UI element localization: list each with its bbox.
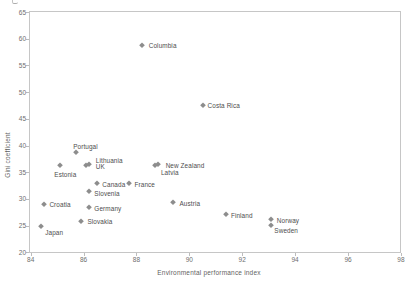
data-point-label: Columbia — [149, 42, 177, 49]
plot-area — [29, 11, 402, 253]
data-point-label: France — [135, 181, 156, 188]
x-tick-label: 84 — [27, 256, 34, 263]
y-tick-label: 40 — [10, 142, 26, 149]
data-point-label: Canada — [102, 181, 125, 188]
data-point-label: Japan — [45, 229, 63, 236]
data-point-label: Finland — [231, 212, 253, 219]
y-tick-label: 25 — [10, 222, 26, 229]
data-point-label: Costa Rica — [208, 102, 240, 109]
x-tick-label: 88 — [133, 256, 140, 263]
data-point-label: Sweden — [274, 227, 298, 234]
data-point-label: Germany — [94, 205, 121, 212]
x-tick-label: 94 — [292, 256, 299, 263]
y-tick-label: 60 — [10, 35, 26, 42]
x-tick-label: 92 — [239, 256, 246, 263]
y-tick-label: 50 — [10, 89, 26, 96]
x-tick-label: 86 — [80, 256, 87, 263]
y-tick-label: 35 — [10, 169, 26, 176]
data-point-label: Slovakia — [87, 218, 112, 225]
y-tick-label: 55 — [10, 62, 26, 69]
data-point-label: Slovenia — [94, 190, 119, 197]
x-tick-label: 90 — [186, 256, 193, 263]
data-point-label: Austria — [179, 200, 200, 207]
y-tick-label: 65 — [10, 9, 26, 16]
clipped-text-fragment — [12, 0, 18, 4]
x-axis-title: Environmental performance index — [157, 269, 260, 276]
data-point-label: Portugal — [73, 143, 98, 150]
data-point-label: New Zealand — [166, 162, 205, 169]
y-axis-title: Gini coefficient — [4, 132, 11, 178]
y-tick-label: 30 — [10, 195, 26, 202]
data-point-label: Latvia — [161, 169, 179, 176]
data-point-label: Estonia — [54, 171, 76, 178]
x-tick-label: 98 — [397, 256, 404, 263]
y-tick-label: 45 — [10, 115, 26, 122]
x-tick-label: 96 — [344, 256, 351, 263]
scatter-chart: 65605550454035302520 8486889092949698 Co… — [0, 0, 406, 282]
y-tick-label: 20 — [10, 249, 26, 256]
data-point-label: Norway — [277, 217, 299, 224]
data-point-label: Croatia — [49, 201, 70, 208]
data-point-label: UK — [96, 163, 105, 170]
